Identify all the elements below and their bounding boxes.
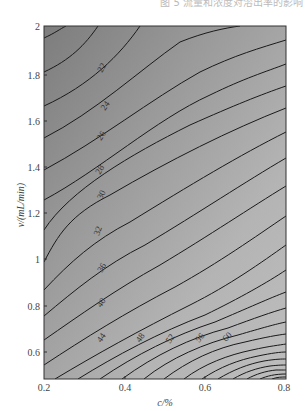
x-axis-label: c/% [157, 397, 173, 408]
plot-area [44, 26, 286, 379]
y-tick-1.4: 1.4 [28, 162, 41, 173]
y-tick-1.8: 1.8 [28, 70, 41, 81]
x-tick-0.8: 0.8 [278, 382, 291, 393]
y-tick-2: 2 [35, 21, 40, 32]
x-tick-labels: 0.2 0.4 0.6 0.8 [38, 382, 291, 393]
x-tick-0.2: 0.2 [38, 382, 51, 393]
y-tick-0.8: 0.8 [28, 301, 41, 312]
x-tick-0.6: 0.6 [199, 382, 212, 393]
y-axis-label: v/(mL/min) [15, 182, 27, 227]
y-tick-1.6: 1.6 [28, 116, 41, 127]
y-tick-1.2: 1.2 [28, 208, 41, 219]
y-tick-0.6: 0.6 [28, 347, 41, 358]
x-tick-0.4: 0.4 [119, 382, 132, 393]
contour-chart: 22 24 26 28 30 32 36 40 44 48 52 56 60 2… [0, 0, 307, 411]
y-tick-labels: 2 1.8 1.6 1.4 1.2 1 0.8 0.6 [28, 21, 41, 358]
y-tick-1: 1 [35, 254, 40, 265]
